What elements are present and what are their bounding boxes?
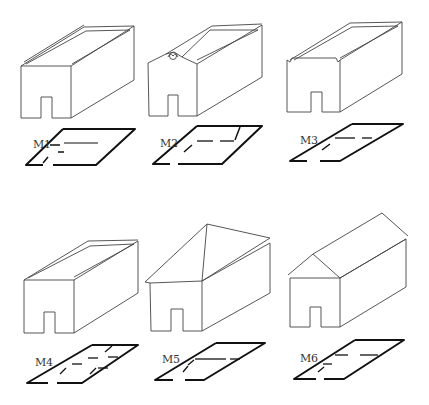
house-m2-isometric <box>148 24 262 116</box>
label-m6: M6 <box>300 352 318 365</box>
label-m2: M2 <box>160 137 178 150</box>
label-m1: M1 <box>33 138 51 151</box>
house-m1-isometric <box>21 25 134 118</box>
label-m3: M3 <box>300 134 318 147</box>
house-m6-isometric <box>288 213 408 327</box>
label-m5: M5 <box>162 353 180 366</box>
house-m5-isometric <box>145 224 270 331</box>
house-m4-isometric <box>24 240 138 333</box>
house-models-diagram <box>0 0 429 405</box>
label-m4: M4 <box>35 356 53 369</box>
house-m3-isometric <box>287 22 402 112</box>
